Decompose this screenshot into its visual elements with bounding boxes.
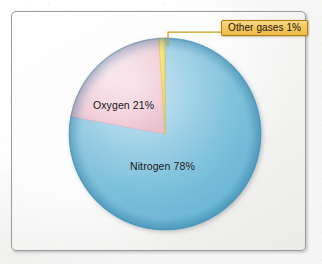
chart-accessible-title: Composition of the atmosphere (12, 12, 13, 13)
pie-chart (69, 38, 261, 230)
pie-label-nitrogen: Nitrogen 78% (130, 160, 195, 172)
figure-frame: Composition of the atmosphere (11, 11, 306, 251)
callout-other-gases[interactable]: Other gases 1% (221, 20, 308, 36)
figure-page: Composition of the atmosphere (0, 0, 322, 264)
pie-rim-shading (69, 38, 261, 230)
pie-label-oxygen: Oxygen 21% (93, 99, 154, 111)
